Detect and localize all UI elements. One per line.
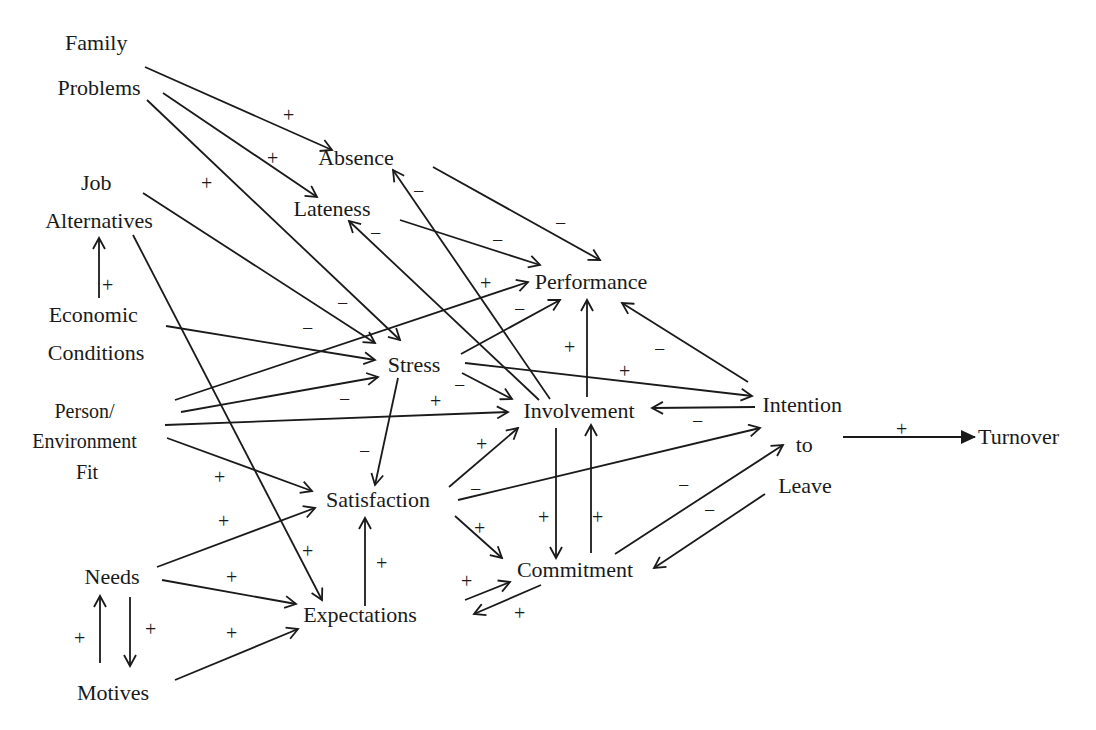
- edge-stress-involvement: [462, 373, 512, 399]
- sign-pef-performance: +: [480, 272, 491, 294]
- sign-involvement-absence: −: [413, 180, 424, 202]
- sign-stress-satisfaction: −: [359, 440, 370, 462]
- node-stress: Stress: [388, 352, 441, 377]
- edge-intention-performance: [622, 303, 748, 382]
- node-satisfaction: Satisfaction: [326, 487, 430, 512]
- edges: [99, 67, 975, 680]
- edge-pef-involvement: [165, 412, 508, 425]
- edge-commitment-expectations: [474, 585, 541, 614]
- edge-signs: + + + − − + + − + + + + + + + + − − − − …: [74, 104, 907, 649]
- node-family-problems: Family Problems: [57, 30, 140, 100]
- edge-stress-satisfaction: [375, 378, 398, 485]
- node-motives: Motives: [77, 680, 149, 705]
- sign-jobalt-stress: −: [337, 292, 348, 314]
- sign-intention-performance: −: [654, 338, 665, 360]
- edge-intention-involvement: [652, 407, 755, 408]
- sign-economic-jobalt: +: [102, 274, 113, 296]
- node-needs: Needs: [85, 564, 140, 589]
- node-intention-to-leave: Intention to Leave: [763, 392, 848, 498]
- node-turnover: Turnover: [978, 424, 1060, 449]
- sign-jobalt-expectations: +: [302, 540, 313, 562]
- sign-satisfaction-involvement: +: [476, 433, 487, 455]
- edge-needs-satisfaction: [157, 508, 315, 567]
- sign-needs-satisfaction: +: [218, 510, 229, 532]
- sign-involvement-performance: +: [564, 336, 575, 358]
- node-absence: Absence: [318, 145, 394, 170]
- edge-absence-performance: [433, 167, 600, 260]
- node-lateness: Lateness: [294, 196, 371, 221]
- sign-commitment-intention: −: [678, 474, 689, 496]
- sign-stress-intention: +: [619, 360, 630, 382]
- sign-intention-turnover: +: [896, 418, 907, 440]
- node-performance: Performance: [535, 269, 647, 294]
- sign-expectations-commitment: +: [461, 570, 472, 592]
- node-economic-conditions: Economic Conditions: [48, 302, 145, 365]
- sign-economic-stress: −: [302, 317, 313, 339]
- sign-family-lateness: +: [267, 147, 278, 169]
- edge-involvement-lateness: [349, 221, 539, 400]
- edge-family-absence: [145, 67, 332, 150]
- causal-diagram: + + + − − + + − + + + + + + + + − − − − …: [0, 0, 1096, 730]
- sign-needs-expectations: +: [226, 566, 237, 588]
- sign-lateness-performance: −: [492, 229, 503, 251]
- sign-absence-performance: −: [555, 212, 566, 234]
- sign-needs-motives: +: [145, 618, 156, 640]
- sign-commitment-involvement: +: [592, 506, 603, 528]
- sign-pef-satisfaction: +: [214, 466, 225, 488]
- sign-pef-involvement: +: [430, 390, 441, 412]
- edge-pef-satisfaction: [167, 438, 312, 491]
- sign-intention-involvement: −: [692, 410, 703, 432]
- node-expectations: Expectations: [303, 602, 417, 627]
- sign-family-absence: +: [283, 104, 294, 126]
- sign-intention-commitment: −: [704, 499, 715, 521]
- sign-satisfaction-commitment: +: [474, 517, 485, 539]
- edge-stress-intention: [465, 363, 752, 396]
- sign-involvement-commitment: +: [538, 506, 549, 528]
- sign-satisfaction-intention: −: [470, 478, 481, 500]
- sign-motives-expectations: +: [226, 622, 237, 644]
- edge-stress-performance: [461, 300, 560, 354]
- node-job-alternatives: Job Alternatives: [45, 170, 153, 233]
- edge-lateness-performance: [400, 220, 540, 265]
- sign-motives-needs: +: [74, 627, 85, 649]
- node-commitment: Commitment: [517, 557, 633, 582]
- sign-expectations-satisfaction: +: [376, 552, 387, 574]
- sign-stress-involvement: −: [454, 374, 465, 396]
- nodes: Family Problems Job Alternatives Economi…: [32, 30, 1059, 705]
- sign-involvement-lateness: −: [370, 222, 381, 244]
- node-involvement: Involvement: [523, 398, 634, 423]
- sign-pef-stress: −: [339, 388, 350, 410]
- sign-family-stress: +: [201, 172, 212, 194]
- sign-commitment-expectations: +: [514, 602, 525, 624]
- node-person-environment-fit: Person/ Environment Fit: [32, 400, 141, 483]
- sign-stress-performance: −: [514, 298, 525, 320]
